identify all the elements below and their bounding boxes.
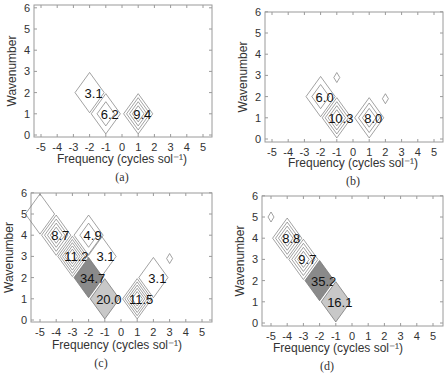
peak-value-label: 3.1 — [148, 271, 166, 286]
y-tick-label: 3 — [252, 253, 258, 265]
peak-value-label: 8.7 — [51, 228, 69, 243]
y-tick-label: 6 — [255, 6, 261, 18]
contour-ring — [268, 212, 274, 222]
panel-caption: (d) — [320, 359, 334, 373]
y-tick-label: 5 — [24, 23, 30, 35]
contour-peak: 8.0 — [355, 98, 384, 138]
y-tick-label: 4 — [21, 229, 27, 241]
y-tick-label: 1 — [24, 108, 30, 120]
plot-frame — [265, 12, 443, 142]
panel-a: -5-4-3-2-10123450123456Frequency (cycles… — [5, 2, 212, 184]
peak-value-label: 9.4 — [133, 107, 151, 122]
y-tick-label: 2 — [21, 272, 27, 284]
x-tick-label: 0 — [118, 326, 124, 338]
y-tick-label: 1 — [255, 112, 261, 124]
x-tick-label: 5 — [430, 330, 436, 342]
x-tick-label: 4 — [414, 330, 420, 342]
y-tick-label: 1 — [252, 296, 258, 308]
y-axis-title: Wavenumber — [233, 226, 247, 297]
panel-caption: (c) — [94, 356, 107, 370]
panel-caption: (b) — [346, 174, 360, 188]
x-tick-label: 5 — [199, 326, 205, 338]
contour-peak — [167, 254, 173, 264]
x-tick-label: -2 — [84, 326, 94, 338]
y-tick-label: 5 — [252, 211, 258, 223]
x-tick-label: -5 — [36, 141, 46, 153]
peak-value-label: 3.1 — [85, 86, 103, 101]
y-tick-label: 5 — [255, 27, 261, 39]
peak-value-label: 9.7 — [298, 252, 316, 267]
y-tick-label: 4 — [255, 48, 261, 60]
panel-b: -5-4-3-2-10123450123456Frequency (cycles… — [236, 6, 443, 188]
x-tick-label: 1 — [134, 326, 140, 338]
peak-value-label: 6.2 — [101, 107, 119, 122]
y-tick-label: 3 — [21, 250, 27, 262]
contour-ring — [334, 73, 340, 83]
panel-caption: (a) — [115, 170, 128, 184]
panel-d: -5-4-3-2-10123450123456Frequency (cycles… — [233, 190, 443, 373]
contour-peak: 9.4 — [124, 94, 153, 134]
figure: -5-4-3-2-10123450123456Frequency (cycles… — [0, 0, 447, 376]
y-tick-label: 2 — [24, 87, 30, 99]
x-axis-title: Frequency (cycles sol⁻¹) — [57, 152, 187, 166]
y-axis-title: Wavenumber — [2, 222, 16, 293]
y-tick-label: 1 — [21, 293, 27, 305]
y-tick-label: 6 — [24, 2, 30, 14]
y-tick-label: 4 — [24, 44, 30, 56]
y-axis-title: Wavenumber — [236, 42, 250, 113]
y-tick-label: 3 — [24, 65, 30, 77]
y-tick-label: 0 — [21, 314, 27, 326]
peak-value-label: 16.1 — [327, 295, 352, 310]
contour-peak — [382, 94, 388, 104]
x-axis-title: Frequency (cycles sol⁻¹) — [288, 156, 418, 170]
y-tick-label: 6 — [21, 187, 27, 199]
plot-frame — [262, 196, 443, 326]
peak-value-label: 8.8 — [282, 231, 300, 246]
y-tick-label: 0 — [255, 133, 261, 145]
x-tick-label: -4 — [51, 326, 61, 338]
x-tick-label: -5 — [35, 326, 45, 338]
x-tick-label: 5 — [200, 141, 206, 153]
y-tick-label: 0 — [24, 129, 30, 141]
peak-value-label: 20.0 — [96, 292, 121, 307]
y-tick-label: 0 — [252, 317, 258, 329]
y-tick-label: 3 — [255, 69, 261, 81]
contour-ring — [167, 254, 173, 264]
x-tick-label: 3 — [167, 326, 173, 338]
plot-frame — [34, 5, 212, 137]
contour-ring — [382, 94, 388, 104]
y-tick-label: 2 — [252, 275, 258, 287]
peak-value-label: 4.9 — [84, 228, 102, 243]
contour-peak — [334, 73, 340, 83]
peak-value-label: 6.0 — [316, 90, 334, 105]
x-tick-label: 5 — [431, 146, 437, 158]
y-tick-label: 2 — [255, 91, 261, 103]
y-tick-label: 5 — [21, 208, 27, 220]
y-tick-label: 4 — [252, 232, 258, 244]
peak-value-label: 10.3 — [328, 111, 353, 126]
panel-c: -5-4-3-2-10123450123456Frequency (cycles… — [2, 187, 212, 370]
peak-value-label: 8.0 — [364, 111, 382, 126]
x-tick-label: -5 — [267, 146, 277, 158]
x-axis-title: Frequency (cycles sol⁻¹) — [52, 338, 182, 352]
x-tick-label: -3 — [68, 326, 78, 338]
x-axis-title: Frequency (cycles sol⁻¹) — [273, 341, 403, 355]
x-tick-label: -1 — [100, 326, 110, 338]
x-tick-label: 4 — [183, 326, 189, 338]
x-tick-label: 2 — [150, 326, 156, 338]
contour-peak — [268, 212, 274, 222]
y-axis-title: Wavenumber — [5, 36, 19, 107]
peak-value-label: 3.1 — [97, 249, 115, 264]
peak-value-label: 11.5 — [129, 292, 153, 307]
plot-frame — [31, 193, 212, 322]
y-tick-label: 6 — [252, 190, 258, 202]
